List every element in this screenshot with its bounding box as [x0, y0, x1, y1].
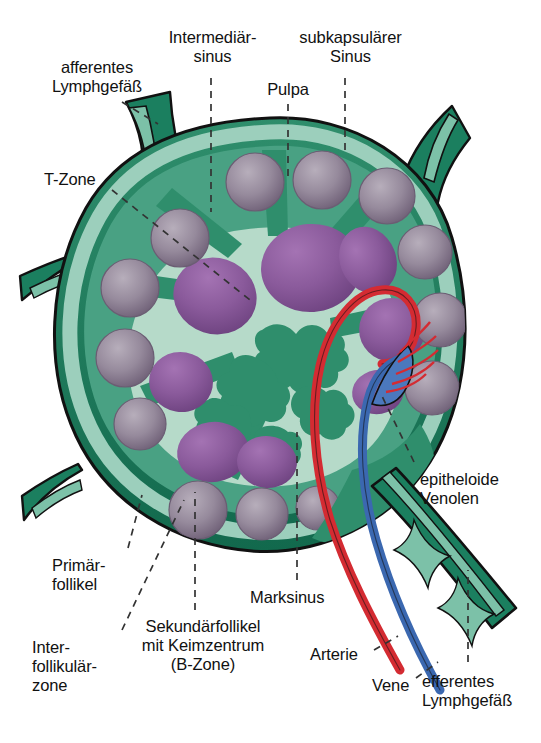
lymph-node-diagram-page: afferentes Lymphgefäß Intermediär- sinus…: [0, 0, 541, 743]
label-medullary-sinus: Marksinus: [250, 588, 355, 607]
label-high-endothelial-venules: epitheloide Venolen: [420, 470, 535, 508]
primary-follicle: [398, 225, 452, 279]
primary-follicle: [169, 481, 227, 539]
label-artery: Arterie: [310, 645, 382, 664]
primary-follicle: [226, 153, 284, 211]
label-secondary-follicle: Sekundärfollikel mit Keimzentrum (B-Zone…: [118, 617, 288, 674]
primary-follicle: [236, 488, 288, 540]
primary-follicle: [413, 293, 467, 347]
primary-follicle: [114, 398, 166, 450]
afferent-lymph-vessel-left-lower: [22, 464, 82, 520]
primary-follicle: [359, 168, 415, 224]
label-subcapsular-sinus: subkapsulärer Sinus: [278, 28, 423, 66]
label-primary-follicle: Primär- follikel: [52, 556, 142, 594]
label-pulp: Pulpa: [248, 80, 328, 99]
label-efferent-lymph-vessel: efferentes Lymphgefäß: [422, 672, 540, 710]
primary-follicle: [151, 209, 209, 267]
primary-follicle: [96, 329, 154, 387]
label-interfollicular-zone: Inter- follikulär- zone: [32, 638, 132, 695]
label-t-zone: T-Zone: [44, 170, 134, 189]
primary-follicle: [101, 259, 159, 317]
label-intermediate-sinus: Intermediär- sinus: [150, 28, 275, 66]
label-vein: Vene: [372, 676, 427, 695]
primary-follicle: [293, 151, 351, 209]
